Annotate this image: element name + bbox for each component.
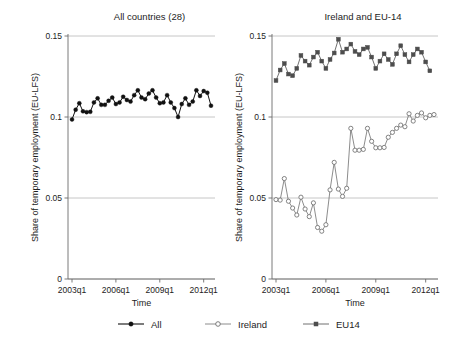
datapoint-all-33 — [191, 100, 195, 104]
datapoint-ireland-38 — [432, 112, 436, 116]
datapoint-all-27 — [169, 100, 173, 104]
datapoint-eu14-19 — [353, 49, 357, 53]
datapoint-ireland-33 — [411, 119, 415, 123]
datapoint-eu14-0 — [274, 79, 278, 83]
datapoint-all-8 — [99, 103, 103, 107]
datapoint-ireland-12 — [324, 223, 328, 227]
legend-label-all: All — [151, 319, 162, 330]
datapoint-ireland-6 — [299, 195, 303, 199]
datapoint-eu14-1 — [278, 68, 282, 72]
datapoint-eu14-17 — [345, 47, 349, 51]
datapoint-ireland-9 — [311, 201, 315, 205]
datapoint-eu14-22 — [366, 45, 370, 49]
datapoint-ireland-4 — [291, 206, 295, 210]
datapoint-ireland-28 — [390, 130, 394, 134]
x-axis-title-left: Time — [132, 298, 152, 308]
datapoint-all-2 — [77, 101, 81, 105]
datapoint-all-24 — [158, 101, 162, 105]
datapoint-eu14-3 — [287, 72, 291, 76]
datapoint-ireland-19 — [353, 148, 357, 152]
datapoint-ireland-32 — [407, 112, 411, 116]
datapoint-all-9 — [103, 103, 107, 107]
datapoint-all-14 — [121, 95, 125, 99]
datapoint-all-35 — [198, 94, 202, 98]
legend-label-eu14: EU14 — [336, 319, 360, 330]
datapoint-all-36 — [202, 89, 206, 93]
datapoint-ireland-5 — [295, 213, 299, 217]
legend-marker-eu14 — [314, 322, 318, 326]
panel-left: All countries (28)00.050.10.152003q12006… — [30, 11, 218, 308]
datapoint-all-22 — [150, 88, 154, 92]
datapoint-ireland-18 — [349, 126, 353, 130]
datapoint-all-38 — [209, 104, 213, 108]
datapoint-eu14-5 — [295, 67, 299, 71]
datapoint-eu14-13 — [328, 58, 332, 62]
datapoint-ireland-36 — [424, 116, 428, 120]
datapoint-eu14-36 — [424, 60, 428, 64]
datapoint-eu14-6 — [299, 54, 303, 58]
xtick-label-right-0: 2003q1 — [262, 285, 291, 295]
legend-marker-ireland — [216, 322, 221, 327]
datapoint-ireland-26 — [382, 145, 386, 149]
datapoint-all-20 — [143, 97, 147, 101]
ytick-label-left-3: 0.15 — [45, 31, 62, 41]
y-axis-title-right: Share of temporary employment (EU-LFS) — [234, 73, 244, 242]
datapoint-eu14-10 — [316, 50, 320, 54]
datapoint-eu14-14 — [332, 51, 336, 55]
ytick-label-right-2: 0.1 — [254, 112, 266, 122]
datapoint-eu14-11 — [320, 59, 324, 63]
datapoint-all-1 — [74, 108, 78, 112]
xtick-label-right-2: 2009q1 — [362, 285, 391, 295]
datapoint-eu14-31 — [403, 53, 407, 57]
datapoint-all-37 — [205, 91, 209, 95]
datapoint-all-23 — [154, 96, 158, 100]
ytick-label-right-0: 0 — [261, 274, 266, 284]
datapoint-eu14-12 — [324, 67, 328, 71]
datapoint-eu14-2 — [282, 62, 286, 66]
datapoint-all-29 — [176, 115, 180, 119]
datapoint-all-28 — [172, 106, 176, 110]
datapoint-ireland-14 — [332, 160, 336, 164]
datapoint-eu14-37 — [428, 69, 432, 73]
datapoint-all-3 — [81, 109, 85, 113]
datapoint-eu14-26 — [382, 52, 386, 56]
legend-label-ireland: Ireland — [238, 319, 267, 330]
datapoint-ireland-13 — [328, 188, 332, 192]
datapoint-ireland-3 — [286, 199, 290, 203]
datapoint-ireland-2 — [282, 176, 286, 180]
datapoint-ireland-34 — [415, 113, 419, 117]
datapoint-all-34 — [194, 88, 198, 92]
legend-marker-all — [129, 322, 133, 326]
datapoint-all-32 — [187, 103, 191, 107]
datapoint-eu14-24 — [374, 67, 378, 71]
datapoint-ireland-27 — [386, 135, 390, 139]
datapoint-eu14-34 — [415, 47, 419, 51]
panel-title-right: Ireland and EU-14 — [324, 11, 401, 22]
datapoint-ireland-17 — [345, 186, 349, 190]
datapoint-ireland-25 — [378, 146, 382, 150]
datapoint-eu14-4 — [291, 74, 295, 78]
datapoint-ireland-7 — [303, 207, 307, 211]
panel-title-left: All countries (28) — [114, 11, 185, 22]
datapoint-ireland-37 — [428, 113, 432, 117]
datapoint-all-10 — [107, 99, 111, 103]
datapoint-ireland-31 — [403, 125, 407, 129]
x-axis-title-right: Time — [345, 298, 365, 308]
datapoint-eu14-33 — [411, 53, 415, 57]
xtick-label-left-3: 2012q1 — [189, 285, 218, 295]
xtick-label-left-1: 2006q1 — [102, 285, 131, 295]
datapoint-eu14-16 — [341, 50, 345, 54]
datapoint-ireland-8 — [307, 215, 311, 219]
xtick-label-left-2: 2009q1 — [146, 285, 175, 295]
series-line-ireland — [276, 113, 434, 231]
y-axis-title-left: Share of temporary employment (EU-LFS) — [30, 73, 40, 242]
datapoint-ireland-20 — [357, 148, 361, 152]
datapoint-all-13 — [118, 100, 122, 104]
datapoint-ireland-21 — [361, 147, 365, 151]
legend: AllIrelandEU14 — [118, 319, 360, 330]
datapoint-all-16 — [129, 100, 133, 104]
datapoint-all-19 — [140, 96, 144, 100]
xtick-label-right-1: 2006q1 — [312, 285, 341, 295]
datapoint-all-30 — [180, 102, 184, 106]
datapoint-all-25 — [161, 100, 165, 104]
